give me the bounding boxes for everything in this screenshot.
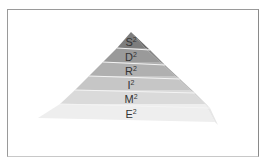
level-label-d2: D2 [111, 51, 151, 63]
level-label-m2: M2 [111, 93, 151, 105]
level-label-r2: R2 [111, 65, 151, 77]
level-label-i2: I2 [111, 79, 151, 91]
level-label-s2: S2 [111, 36, 151, 48]
level-label-e2: E2 [111, 108, 151, 120]
